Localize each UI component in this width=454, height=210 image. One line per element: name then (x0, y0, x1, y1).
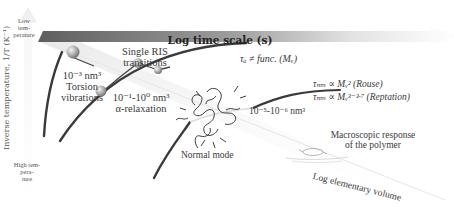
label-line: ture (4, 176, 50, 183)
normal-mode-label: Normal mode (181, 151, 234, 161)
macroscopic-response-label: Macroscopic response of the polymer (318, 131, 428, 151)
label-line: Torsion (54, 81, 110, 92)
label-line: Single RIS (110, 46, 180, 57)
normal-mode-volume: 10⁻⁵-10⁻⁶ nm³ (249, 107, 305, 117)
label-line: vibrations (54, 92, 110, 103)
y-axis-label: Inverse temperature, 1/T (K⁻¹) (2, 26, 11, 150)
torsion-label: 10⁻³ nm³ Torsion vibrations (54, 70, 110, 103)
volume-axis-plane (40, 42, 440, 200)
alpha-relaxation-label: 10⁻¹-10⁰ nm³ α-relaxation (104, 92, 178, 114)
label-line: of the polymer (318, 141, 428, 151)
time-axis-label: Log time scale (s) (120, 34, 320, 46)
diagram-canvas (0, 0, 454, 210)
alpha-volume: 10⁻¹-10⁰ nm³ (104, 92, 178, 103)
label-line: α-relaxation (104, 103, 178, 114)
torsion-volume: 10⁻³ nm³ (54, 70, 110, 81)
ris-label: Single RIS transitions (110, 46, 180, 68)
tau-rouse-annotation: τₙₘ ∝ Mᵥ² (Rouse) (313, 80, 383, 90)
tau-alpha-annotation: τₐ ≠ func. (Mᵥ) (240, 54, 297, 65)
tau-reptation-annotation: τₙₘ ∝ Mᵥ³⁻³·⁷ (Reptation) (313, 93, 410, 103)
label-line: transitions (110, 57, 180, 68)
y-axis-bottom-label: High tem- pera- ture (4, 162, 50, 182)
